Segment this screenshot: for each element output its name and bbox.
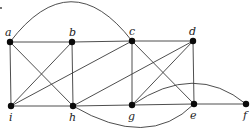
edge-d-h (73, 41, 193, 106)
node-a (7, 39, 13, 45)
edge-layer (10, 2, 246, 128)
edge-h-g (73, 105, 132, 106)
edge-c-i (11, 41, 132, 106)
node-label-c: c (129, 25, 135, 38)
edge-b-i (11, 42, 72, 106)
node-label-e: e (190, 109, 197, 122)
node-label-h: h (69, 111, 76, 124)
node-label-i: i (9, 111, 13, 124)
edge-b-h (72, 42, 73, 106)
node-b (69, 39, 75, 45)
node-i (8, 103, 14, 109)
node-layer (7, 38, 249, 109)
stray-mark-layer (0, 7, 2, 9)
node-g (129, 102, 135, 108)
graph-diagram: abcdihgef (0, 0, 252, 134)
node-label-a: a (5, 26, 12, 39)
node-h (70, 103, 76, 109)
node-f (243, 101, 249, 107)
node-label-f: f (242, 109, 249, 122)
node-label-d: d (189, 25, 196, 38)
edge-g-e (132, 104, 194, 105)
edge-b-c (72, 41, 132, 42)
node-e (191, 101, 197, 107)
stray-dot-mark (0, 7, 2, 9)
node-label-g: g (128, 110, 135, 123)
node-label-b: b (69, 26, 76, 39)
edge-a-i (10, 42, 11, 106)
node-d (190, 38, 196, 44)
node-c (129, 38, 135, 44)
edge-d-e (193, 41, 194, 104)
